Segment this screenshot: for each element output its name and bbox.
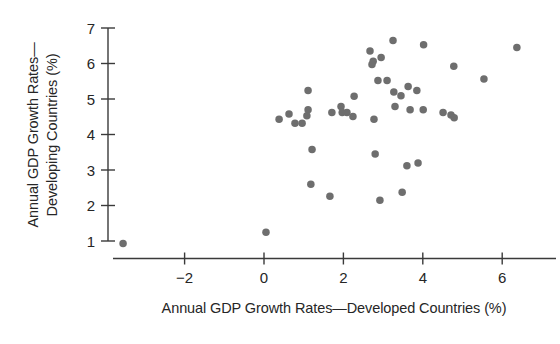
scatter-point [397, 92, 405, 100]
scatter-point [308, 146, 316, 154]
scatter-point [349, 113, 357, 121]
scatter-point [291, 119, 299, 127]
scatter-point [119, 240, 127, 248]
scatter-point [389, 37, 397, 45]
x-axis-tick-label: 2 [339, 269, 347, 286]
scatter-point [377, 54, 385, 62]
scatter-point [370, 115, 378, 123]
scatter-point [406, 106, 414, 114]
scatter-plot-figure: Annual GDP Growth Rates— Developing Coun… [0, 0, 560, 344]
scatter-point [420, 41, 428, 49]
scatter-point [404, 83, 412, 91]
scatter-point [326, 193, 334, 201]
x-axis-tick-label: −2 [176, 269, 193, 286]
scatter-point [328, 109, 336, 117]
y-axis-tick-label: 7 [87, 20, 95, 37]
scatter-point [391, 103, 399, 111]
scatter-point [383, 77, 391, 85]
plot-canvas: 1234567−20246 [0, 0, 560, 344]
scatter-point [368, 61, 376, 69]
y-axis-tick-label: 4 [87, 126, 95, 143]
scatter-point [376, 196, 384, 204]
scatter-point [350, 92, 358, 100]
y-axis-tick-label: 5 [87, 91, 95, 108]
x-axis-tick-label: 4 [419, 269, 427, 286]
scatter-point [480, 75, 488, 83]
scatter-point [303, 112, 311, 120]
y-axis-tick-label: 3 [87, 162, 95, 179]
scatter-point [262, 228, 270, 236]
y-axis-tick-label: 6 [87, 55, 95, 72]
x-axis-label: Annual GDP Growth Rates—Developed Countr… [108, 300, 560, 316]
scatter-point [414, 159, 422, 167]
scatter-point [403, 162, 411, 170]
scatter-point [413, 87, 421, 95]
x-axis-tick-label: 0 [260, 269, 268, 286]
scatter-point [513, 44, 521, 52]
y-axis-tick-label: 2 [87, 197, 95, 214]
scatter-point [307, 180, 315, 188]
scatter-point [371, 150, 379, 158]
scatter-point [390, 88, 398, 96]
scatter-point [398, 189, 406, 197]
scatter-point [285, 110, 293, 118]
scatter-point [374, 77, 382, 85]
scatter-point [439, 109, 447, 117]
scatter-point [419, 106, 427, 114]
scatter-point [450, 63, 458, 71]
y-axis-tick-label: 1 [87, 233, 95, 250]
scatter-point [298, 119, 306, 127]
scatter-point [450, 114, 458, 122]
x-axis-tick-label: 6 [498, 269, 506, 286]
scatter-point [366, 47, 374, 55]
scatter-point [275, 115, 283, 123]
scatter-point [304, 87, 312, 95]
